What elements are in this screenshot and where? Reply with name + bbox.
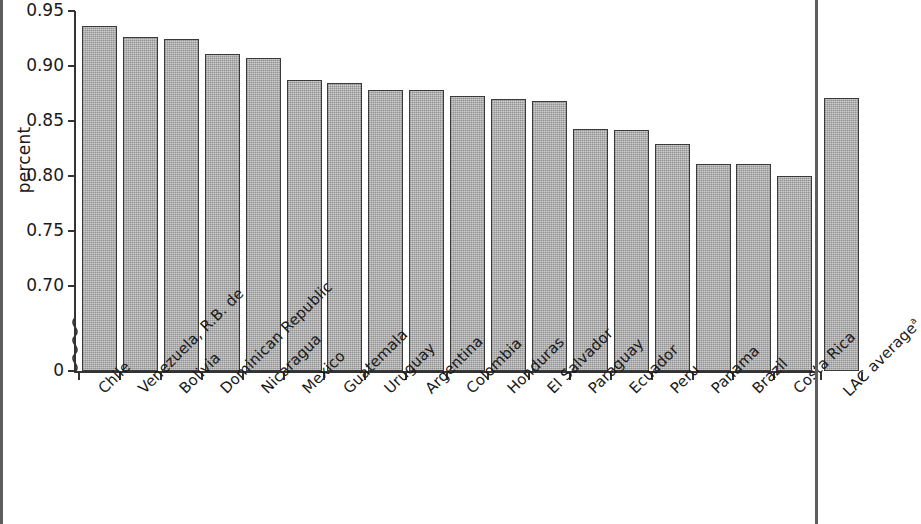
y-tick-label-wrap: 0.90 bbox=[0, 57, 64, 74]
plot-area bbox=[0, 0, 818, 373]
bar bbox=[327, 83, 362, 372]
bar bbox=[824, 98, 859, 371]
y-tick-label-wrap: 0.80 bbox=[0, 167, 64, 184]
bar bbox=[409, 90, 444, 371]
x-tick bbox=[78, 372, 80, 380]
y-tick-label: 0.95 bbox=[6, 2, 64, 19]
y-tick-0.80 bbox=[68, 175, 75, 177]
bar bbox=[696, 164, 731, 371]
bar bbox=[164, 39, 199, 372]
y-tick-label-wrap: 0 bbox=[0, 362, 64, 379]
bar bbox=[532, 101, 567, 371]
y-tick-label: 0.70 bbox=[6, 277, 64, 294]
bar bbox=[82, 26, 117, 371]
y-tick-label-wrap: 0.95 bbox=[0, 2, 64, 19]
bar bbox=[777, 176, 812, 371]
y-tick-0.95 bbox=[68, 10, 75, 12]
bar bbox=[123, 37, 158, 371]
bar bbox=[491, 99, 526, 371]
bar bbox=[736, 164, 771, 371]
y-tick-label: 0 bbox=[6, 362, 64, 379]
y-tick-0.75 bbox=[68, 230, 75, 232]
y-tick-label-wrap: 0.85 bbox=[0, 112, 64, 129]
axis-break-squiggle bbox=[66, 318, 84, 372]
bar bbox=[655, 144, 690, 371]
y-tick-label: 0.80 bbox=[6, 167, 64, 184]
y-tick-label-wrap: 0.70 bbox=[0, 277, 64, 294]
y-tick-label-wrap: 0.75 bbox=[0, 222, 64, 239]
bar bbox=[450, 96, 485, 371]
y-tick-0.90 bbox=[68, 65, 75, 67]
y-tick-label: 0.85 bbox=[6, 112, 64, 129]
y-tick-0.70 bbox=[68, 285, 75, 287]
bar bbox=[614, 130, 649, 371]
y-tick-label: 0.75 bbox=[6, 222, 64, 239]
y-tick-label: 0.90 bbox=[6, 57, 64, 74]
y-tick-0.85 bbox=[68, 120, 75, 122]
